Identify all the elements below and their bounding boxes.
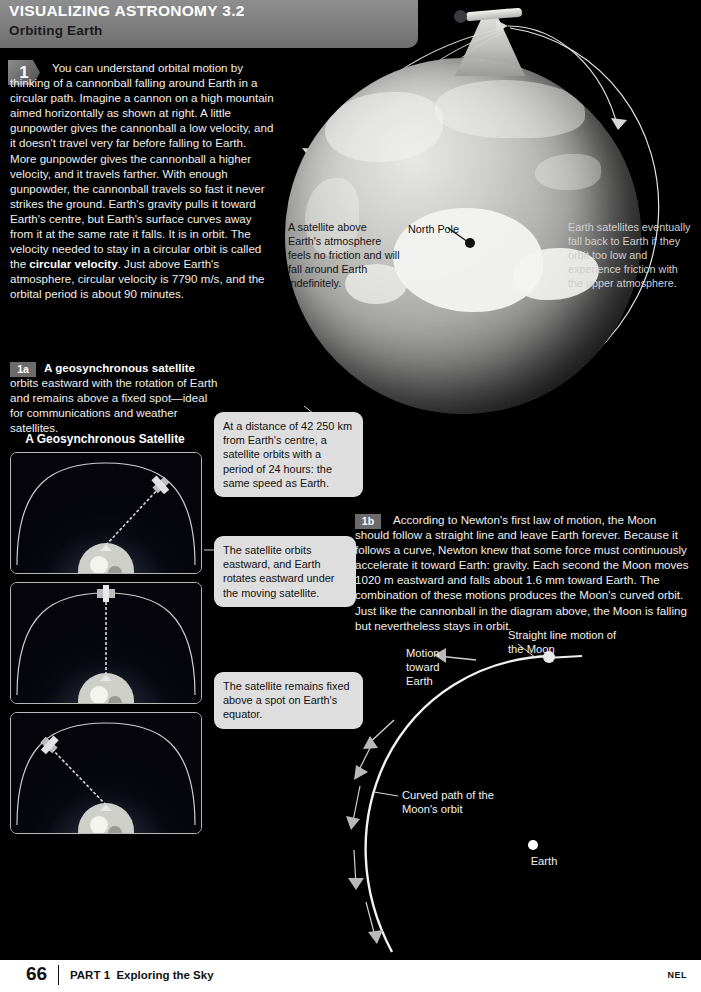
label-curved-path: Curved path of the Moon's orbit	[402, 788, 532, 816]
footer-divider	[58, 965, 59, 985]
page-title: VISUALIZING ASTRONOMY 3.2	[9, 2, 245, 20]
geosynchronous-panel-title: A Geosynchronous Satellite	[10, 432, 200, 446]
paragraph-step-1: You can understand orbital motion by thi…	[10, 60, 275, 302]
label-motion-toward-earth: Motion toward Earth	[406, 646, 464, 688]
para-1-text: You can understand orbital motion by thi…	[10, 61, 274, 270]
para-1a-text-after: orbits eastward with the rotation of Ear…	[10, 376, 218, 434]
footer-imprint: NEL	[668, 970, 688, 980]
footer-page-number: 66	[26, 963, 47, 985]
page-footer: 66 PART 1 Exploring the Sky NEL	[0, 960, 701, 992]
cannon-pivot-icon	[454, 10, 467, 23]
callout-eastward-rotation: The satellite orbits eastward, and Earth…	[214, 536, 356, 607]
label-earth: Earth	[514, 854, 574, 868]
label-north-pole: North Pole	[408, 222, 468, 236]
para-1a-bold-term: A geosynchronous satellite	[44, 361, 195, 374]
satellite-panel-3	[10, 712, 202, 834]
label-straight-line-motion: Straight line motion of the Moon	[508, 628, 628, 656]
satellite-panel-1	[10, 452, 202, 574]
callout-distance-period: At a distance of 42 250 km from Earth's …	[214, 412, 363, 497]
footer-part-label: PART 1 Exploring the Sky	[70, 969, 214, 981]
para-1-bold-term: circular velocity	[29, 257, 117, 270]
earth-dot	[528, 840, 538, 850]
textbook-page: A satellite above Earth's atmosphere fee…	[0, 0, 701, 992]
footer-part: PART 1	[70, 969, 110, 981]
footer-part-title: Exploring the Sky	[116, 969, 213, 981]
paragraph-step-1a: A geosynchronous satellite orbits eastwa…	[10, 360, 223, 435]
page-subtitle: Orbiting Earth	[9, 23, 103, 38]
moon-orbit-diagram: Straight line motion of the Moon Motion …	[330, 600, 701, 968]
satellite-panel-2	[10, 582, 202, 704]
label-satellite-above-atmosphere: A satellite above Earth's atmosphere fee…	[288, 220, 400, 290]
label-satellites-fall-back: Earth satellites eventually fall back to…	[568, 220, 694, 290]
header-bar: VISUALIZING ASTRONOMY 3.2 Orbiting Earth	[0, 0, 418, 48]
